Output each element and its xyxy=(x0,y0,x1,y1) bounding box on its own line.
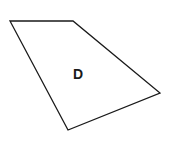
diagram-canvas: D xyxy=(0,0,175,144)
shape-label: D xyxy=(73,66,83,82)
quadrilateral-diagram: D xyxy=(0,0,175,144)
quadrilateral-shape xyxy=(10,21,160,130)
